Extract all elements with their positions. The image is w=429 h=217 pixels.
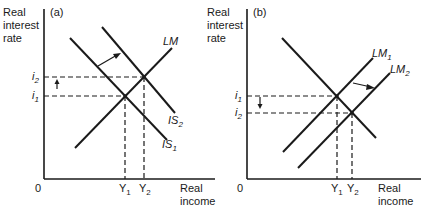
is1-label: IS1 [162,138,177,153]
panel-a: Real interest rate (a) LM IS2 IS1 i2 i1 … [3,6,215,207]
i2-label: i2 [235,106,242,121]
panel-b: Real interest rate (b) LM1 LM2 i1 i2 0 Y… [207,6,421,207]
i1-label: i1 [32,89,39,104]
y-axis-label-line3: rate [3,32,22,44]
equilibrium-point-b1 [335,94,339,98]
y-axis-label-line1: Real [3,6,26,18]
lm2-label: LM2 [390,63,410,78]
x-axis-label-line1: Real [378,182,401,194]
equilibrium-point-a1 [123,94,127,98]
y2-label: Y2 [347,182,359,197]
y-axis-label-line2: interest [3,19,39,31]
x-axis-label-line2: income [378,195,413,207]
y1-label: Y1 [331,182,343,197]
is1-curve [70,38,167,140]
x-axis-label-line2: income [180,195,215,207]
is-curve [282,38,376,138]
rate-down-arrowhead-icon [258,104,263,109]
origin-label: 0 [35,182,41,194]
rate-up-arrowhead-icon [55,79,60,84]
panel-tag: (b) [253,6,266,18]
lm-label: LM [163,35,179,47]
y1-label: Y1 [119,182,131,197]
panel-tag: (a) [50,6,63,18]
origin-label: 0 [237,182,243,194]
lm-curve [75,48,172,148]
i1-label: i1 [235,89,242,104]
is2-label: IS2 [168,114,183,129]
is-lm-diagram: Real interest rate (a) LM IS2 IS1 i2 i1 … [0,0,429,217]
is-shift-arrow [98,55,117,66]
y-axis-label-line3: rate [207,32,226,44]
i2-label: i2 [32,70,39,85]
y-axis-label-line2: interest [207,19,243,31]
y-axis-label-line1: Real [207,6,230,18]
equilibrium-point-b2 [350,111,354,115]
lm1-label: LM1 [372,47,392,62]
y2-label: Y2 [139,182,151,197]
equilibrium-point-a2 [142,75,146,79]
x-axis-label-line1: Real [180,182,203,194]
